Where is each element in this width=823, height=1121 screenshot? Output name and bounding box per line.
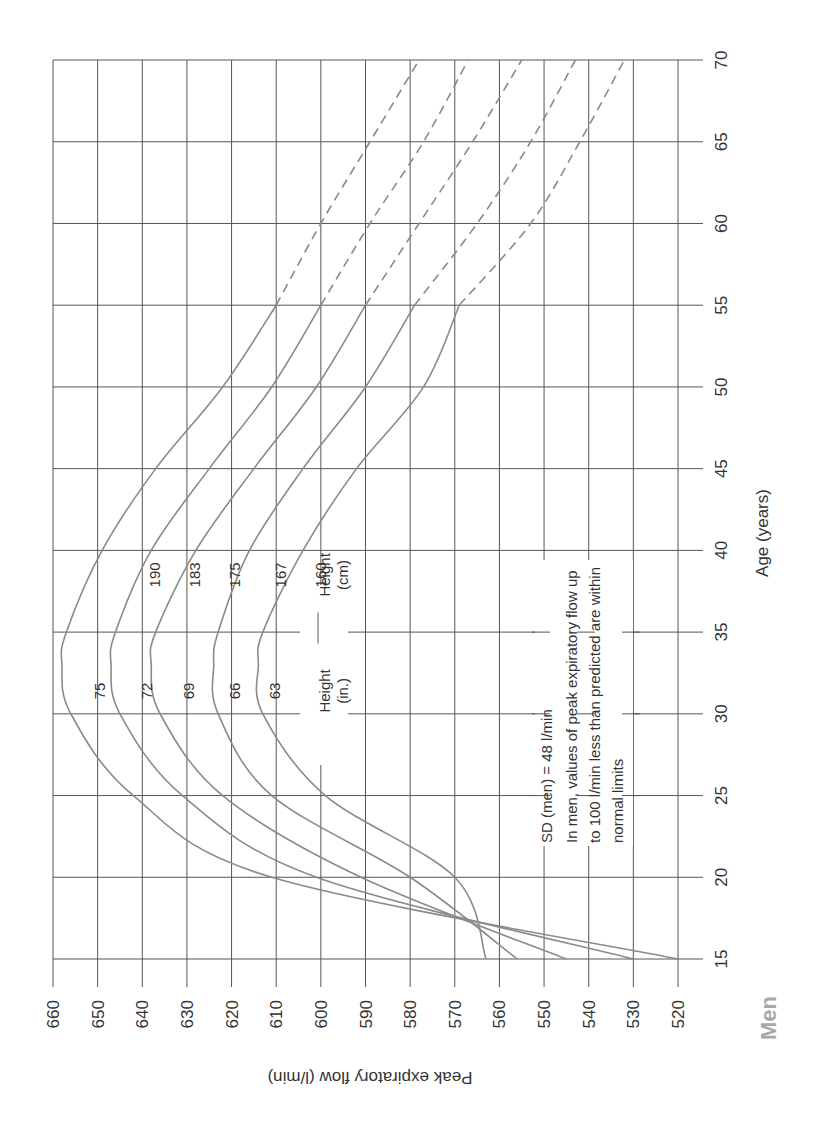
x-tick-label: 55	[712, 296, 731, 315]
chart-title: Men	[756, 996, 781, 1040]
y-tick-label: 650	[89, 1000, 108, 1028]
y-tick-label: 590	[357, 1000, 376, 1028]
curve-dashed-183	[321, 60, 468, 305]
height-cm-label: 190	[146, 562, 163, 587]
height-in-label: 63	[266, 683, 283, 700]
y-tick-label: 620	[223, 1000, 242, 1028]
height-in-unit: (in.)	[334, 678, 351, 704]
peak-flow-chart: 5205305405505605705805906006106206306406…	[0, 0, 823, 1121]
y-tick-label: 640	[133, 1000, 152, 1028]
height-cm-unit: (cm)	[334, 560, 351, 590]
y-tick-label: 540	[580, 1000, 599, 1028]
height-in-header: Height	[316, 668, 333, 712]
y-tick-label: 660	[44, 1000, 63, 1028]
height-in-label: 66	[226, 683, 243, 700]
normal-limits-line-2: to 100 l/min less than predicted are wit…	[586, 567, 603, 843]
x-tick-label: 30	[712, 704, 731, 723]
height-cm-label: 167	[272, 562, 289, 587]
height-cm-header: Height	[316, 552, 333, 596]
y-tick-label: 630	[178, 1000, 197, 1028]
height-cm-label: 175	[226, 562, 243, 587]
x-tick-label: 15	[712, 950, 731, 969]
curve-dashed-190	[276, 60, 419, 305]
y-tick-label: 570	[446, 1000, 465, 1028]
x-tick-label: 65	[712, 132, 731, 151]
curve-dashed-167	[415, 60, 576, 305]
height-cm-label: 183	[186, 562, 203, 587]
sd-annotation: SD (men) = 48 l/min	[538, 709, 555, 843]
curve-dashed-160	[459, 60, 624, 305]
y-tick-label: 520	[669, 1000, 688, 1028]
x-tick-label: 40	[712, 541, 731, 560]
x-tick-label: 35	[712, 623, 731, 642]
x-tick-label: 20	[712, 868, 731, 887]
y-axis-label: Peak expiratory flow (l/min)	[267, 1068, 472, 1087]
normal-limits-line-1: In men, values of peak expiratory flow u…	[563, 570, 580, 843]
y-tick-label: 580	[401, 1000, 420, 1028]
height-in-label: 75	[91, 683, 108, 700]
y-tick-label: 600	[312, 1000, 331, 1028]
x-tick-label: 45	[712, 459, 731, 478]
normal-limits-line-3: normal limits	[609, 759, 626, 843]
x-tick-label: 70	[712, 51, 731, 70]
y-tick-label: 560	[490, 1000, 509, 1028]
y-tick-label: 530	[624, 1000, 643, 1028]
y-tick-label: 550	[535, 1000, 554, 1028]
chart-grid	[53, 60, 703, 987]
y-tick-label: 610	[267, 1000, 286, 1028]
height-in-label: 69	[180, 683, 197, 700]
x-tick-label: 50	[712, 377, 731, 396]
x-tick-label: 25	[712, 786, 731, 805]
x-tick-label: 60	[712, 214, 731, 233]
height-in-label: 72	[138, 683, 155, 700]
x-axis-label: Age (years)	[753, 489, 772, 577]
